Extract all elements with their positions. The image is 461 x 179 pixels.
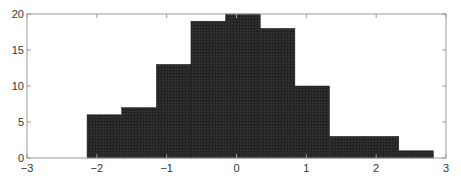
histogram-bar [191,21,226,158]
y-tick-label: 0 [18,152,24,164]
x-tick-label: −1 [160,162,173,174]
histogram-bar [330,136,365,158]
y-tick-label: 20 [12,8,24,20]
histogram-bar [122,108,157,158]
histogram-chart: −3−2−10123 05101520 [0,0,461,179]
histogram-bar [87,115,122,158]
histogram-bar [364,136,399,158]
histogram-bars [87,14,433,158]
x-tick-label: 3 [443,162,449,174]
y-tick-label: 15 [12,44,24,56]
y-tick-label: 5 [18,116,24,128]
histogram-bar [156,64,191,158]
x-tick-label: 0 [233,162,239,174]
histogram-bar [226,14,261,158]
x-tick-label: 1 [303,162,309,174]
y-tick-label: 10 [12,80,24,92]
histogram-bar [399,151,434,158]
x-tick-label: 2 [373,162,379,174]
histogram-bar [260,28,295,158]
histogram-bar [295,86,330,158]
x-tick-label: −2 [91,162,104,174]
